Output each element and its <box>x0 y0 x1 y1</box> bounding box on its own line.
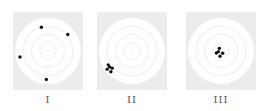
panel-label-3: III <box>186 94 256 105</box>
target-bullseye <box>220 50 222 52</box>
hit-dot-5 <box>217 50 220 53</box>
hit-dot-1 <box>40 26 43 29</box>
target-panel-1 <box>13 12 83 90</box>
target-bullseye <box>47 50 49 52</box>
hit-dot-3 <box>18 55 21 58</box>
target-3 <box>186 12 256 90</box>
target-1 <box>13 12 83 90</box>
hit-dot-3 <box>221 52 224 55</box>
target-panel-3 <box>186 12 256 90</box>
hit-dot-4 <box>45 78 48 81</box>
panel-label-2: II <box>97 94 167 105</box>
hit-dot-4 <box>218 55 221 58</box>
target-2 <box>97 12 167 90</box>
target-panel-2 <box>97 12 167 90</box>
hit-dot-2 <box>66 33 69 36</box>
hit-dot-1 <box>218 47 221 50</box>
panel-label-1: I <box>13 94 83 105</box>
hit-dot-5 <box>108 65 111 68</box>
hit-dot-4 <box>109 70 112 73</box>
target-bullseye <box>131 50 133 52</box>
